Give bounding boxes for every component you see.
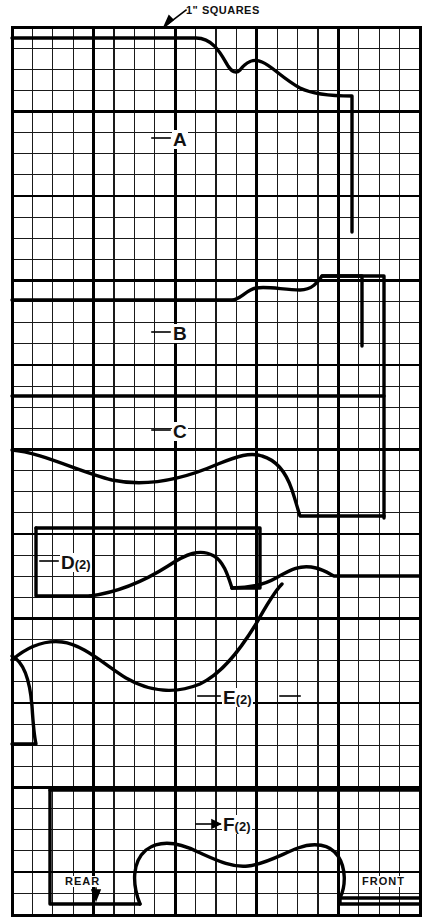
leader-arrow-title <box>164 16 173 27</box>
piece-letter-d: D <box>61 552 75 573</box>
orientation-label-front: FRONT <box>361 876 406 887</box>
piece-letter-a: A <box>173 129 187 150</box>
piece-letter-f: F <box>223 814 235 835</box>
piece-label-d: D(2) <box>60 553 92 572</box>
grid-minor-lines <box>12 27 420 915</box>
piece-letter-e: E <box>223 687 236 708</box>
piece-outline-c-curve <box>12 450 384 516</box>
piece-qty-e: (2) <box>236 692 252 707</box>
piece-label-e: E(2) <box>222 688 253 707</box>
piece-outline-d-curve <box>90 552 232 596</box>
piece-label-b: B <box>172 324 188 343</box>
piece-label-c: C <box>172 422 188 441</box>
orientation-label-rear: REAR <box>64 876 101 887</box>
piece-letter-c: C <box>173 421 187 442</box>
piece-qty-f: (2) <box>235 819 251 834</box>
piece-label-a: A <box>172 130 188 149</box>
leader-arrow-f <box>212 820 220 828</box>
piece-letter-b: B <box>173 323 187 344</box>
piece-qty-d: (2) <box>75 557 91 572</box>
pattern-drawing <box>0 0 432 924</box>
piece-label-f: F(2) <box>222 815 252 834</box>
pattern-sheet: 1" SQUARES <box>0 0 432 924</box>
